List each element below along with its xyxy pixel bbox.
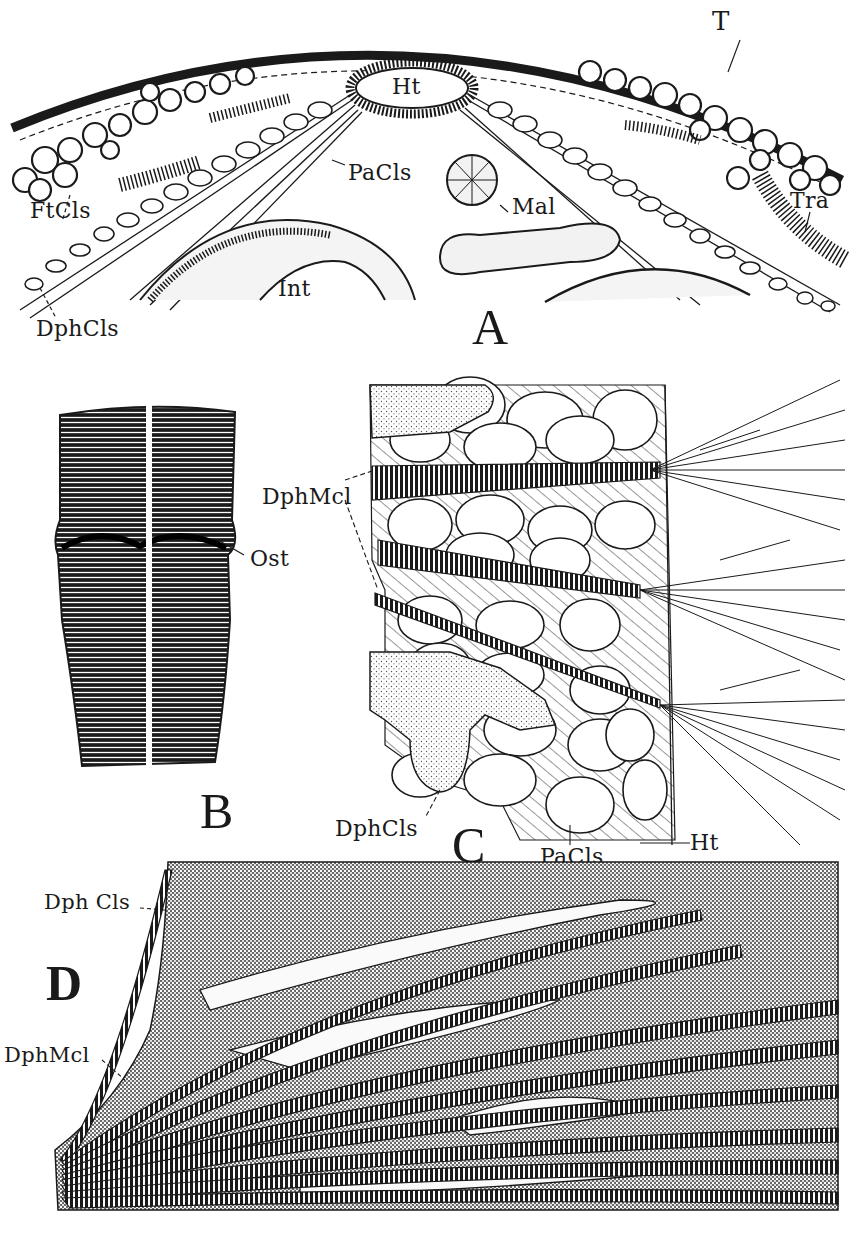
panel-a-drawing — [0, 0, 858, 360]
figure-plate: T Ht PaCls FtCls Mal Tra Int DphCls A — [0, 0, 858, 1233]
label-ostium: Ost — [250, 548, 289, 570]
label-diaphragm-cells-a: DphCls — [36, 318, 119, 340]
label-tracheae: Tra — [790, 190, 829, 212]
panel-letter-b: B — [200, 786, 233, 836]
label-heart-a: Ht — [392, 76, 421, 98]
label-fat-cells: FtCls — [30, 200, 91, 222]
label-heart-c: Ht — [690, 832, 719, 854]
label-malpighian: Mal — [512, 196, 556, 218]
panel-letter-c: C — [452, 820, 485, 870]
label-diaphragm-cells-c: DphCls — [335, 818, 418, 840]
label-diaphragm-muscle-d: DphMcl — [4, 1045, 90, 1066]
label-diaphragm-cells-d: Dph Cls — [44, 892, 130, 913]
panel-letter-d: D — [46, 958, 82, 1008]
label-diaphragm-muscle-c: DphMcl — [262, 486, 352, 508]
panel-letter-a: A — [472, 302, 508, 352]
label-intestine: Int — [278, 278, 311, 300]
label-pericardial-cells-a: PaCls — [348, 162, 412, 184]
label-tergum: T — [712, 8, 730, 34]
label-pericardial-cells-c: PaCls — [540, 846, 604, 868]
